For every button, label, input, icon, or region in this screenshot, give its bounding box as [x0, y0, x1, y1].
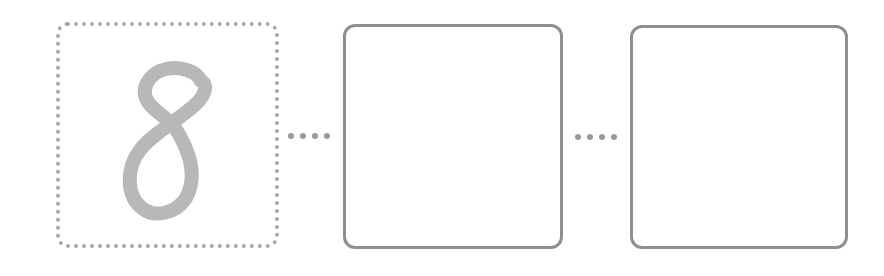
dot	[300, 133, 306, 139]
dot	[587, 134, 593, 140]
handwritten-digit-8	[56, 22, 276, 248]
dot	[288, 133, 294, 139]
connector-dots	[575, 134, 617, 140]
empty-box	[630, 25, 848, 249]
digit-box: 8	[56, 22, 279, 248]
dot	[575, 134, 581, 140]
dot	[611, 134, 617, 140]
dot	[324, 133, 330, 139]
dot	[312, 133, 318, 139]
dot	[599, 134, 605, 140]
connector-dots	[288, 133, 330, 139]
empty-box	[343, 24, 563, 249]
